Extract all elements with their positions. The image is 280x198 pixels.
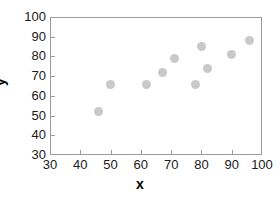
data-point: [106, 80, 115, 89]
x-tick-label-30: 30: [33, 158, 67, 171]
x-tick-80: [201, 150, 202, 155]
y-tick-label-60: 60: [12, 89, 46, 102]
data-point: [158, 68, 167, 77]
x-tick-label-80: 80: [184, 158, 218, 171]
x-tick-70: [171, 150, 172, 155]
y-tick-70: [50, 76, 55, 77]
x-axis-title: x: [0, 176, 280, 192]
x-tick-label-70: 70: [154, 158, 188, 171]
plot-area: [50, 17, 262, 155]
x-tick-50: [111, 150, 112, 155]
x-tick-90: [232, 150, 233, 155]
y-tick-label-40: 40: [12, 128, 46, 141]
data-point: [142, 80, 151, 89]
y-tick-60: [50, 96, 55, 97]
x-tick-label-90: 90: [215, 158, 249, 171]
x-tick-60: [141, 150, 142, 155]
x-tick-label-100: 100: [245, 158, 279, 171]
y-tick-label-80: 80: [12, 49, 46, 62]
y-axis-title: y: [0, 78, 8, 86]
x-tick-label-40: 40: [63, 158, 97, 171]
y-tick-80: [50, 56, 55, 57]
scatter-chart-figure: 30405060708090100 30405060708090100 y x: [0, 0, 280, 198]
data-point: [191, 80, 200, 89]
y-tick-label-70: 70: [12, 69, 46, 82]
data-point: [203, 64, 212, 73]
x-tick-label-50: 50: [94, 158, 128, 171]
y-tick-50: [50, 116, 55, 117]
x-tick-label-60: 60: [124, 158, 158, 171]
y-tick-40: [50, 135, 55, 136]
data-point: [94, 107, 103, 116]
y-tick-label-100: 100: [12, 10, 46, 23]
data-point: [170, 54, 179, 63]
y-tick-label-90: 90: [12, 30, 46, 43]
x-tick-40: [80, 150, 81, 155]
y-tick-90: [50, 37, 55, 38]
y-tick-label-50: 50: [12, 109, 46, 122]
data-point: [197, 42, 206, 51]
